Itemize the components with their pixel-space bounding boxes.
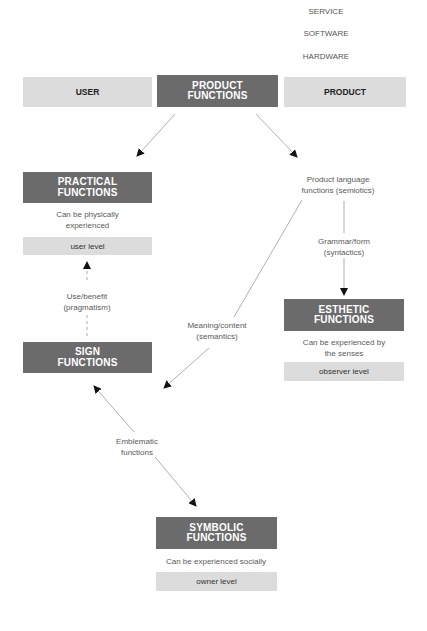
esthetic-desc-line2: the senses — [280, 348, 408, 359]
user-level-box: user level — [23, 237, 152, 255]
owner-level-box: owner level — [156, 572, 277, 591]
pragmatism-label: Use/benefit (pragmatism) — [37, 291, 137, 313]
practical-line2: FUNCTIONS — [57, 188, 117, 199]
pragmatism-line1: Use/benefit — [37, 291, 137, 302]
product-language-line2: functions (semiotics) — [278, 185, 398, 196]
practical-line1: PRACTICAL — [58, 177, 118, 188]
semantics-line1: Meaning/content — [172, 320, 262, 331]
user-label: USER — [76, 87, 100, 97]
product-language-line1: Product language — [278, 174, 398, 185]
observer-level-label: observer level — [319, 367, 369, 376]
arrow-to-sign — [94, 386, 134, 432]
symbolic-description: Can be experienced socially — [146, 556, 286, 567]
emblematic-line2: functions — [92, 447, 182, 458]
product-label: PRODUCT — [324, 87, 366, 97]
arrow-to-symbolic — [155, 457, 196, 506]
syntactics-line2: (syntactics) — [304, 247, 384, 258]
sign-line1: SIGN — [75, 347, 100, 358]
esthetic-desc-line1: Can be experienced by — [280, 337, 408, 348]
semantics-line2: (semantics) — [172, 331, 262, 342]
layer-service: SERVICE — [300, 7, 352, 16]
layer-software: SOFTWARE — [300, 29, 352, 38]
user-box: USER — [23, 77, 152, 107]
esthetic-description: Can be experienced by the senses — [280, 337, 408, 359]
arrow-to-product-language — [256, 114, 297, 157]
emblematic-line1: Emblematic — [92, 436, 182, 447]
practical-desc-line2: experienced — [23, 220, 152, 231]
arrow-to-practical — [137, 114, 175, 156]
emblematic-label: Emblematic functions — [92, 436, 182, 458]
esthetic-functions-box: ESTHETIC FUNCTIONS — [284, 299, 404, 331]
arrow-semantics — [164, 348, 209, 388]
sign-line2: FUNCTIONS — [57, 358, 117, 369]
sign-functions-box: SIGN FUNCTIONS — [23, 342, 152, 373]
layer-hardware: HARDWARE — [300, 52, 352, 61]
observer-level-box: observer level — [284, 362, 404, 381]
esthetic-line2: FUNCTIONS — [314, 315, 374, 326]
product-language-label: Product language functions (semiotics) — [278, 174, 398, 196]
syntactics-line1: Grammar/form — [304, 236, 384, 247]
practical-desc-line1: Can be physically — [23, 209, 152, 220]
product-functions-line2: FUNCTIONS — [187, 91, 247, 102]
semantics-label: Meaning/content (semantics) — [172, 320, 262, 342]
product-functions-box: PRODUCT FUNCTIONS — [157, 75, 278, 107]
symbolic-functions-box: SYMBOLIC FUNCTIONS — [156, 517, 277, 549]
user-level-label: user level — [70, 242, 104, 251]
symbolic-line2: FUNCTIONS — [186, 533, 246, 544]
owner-level-label: owner level — [196, 577, 236, 586]
practical-functions-box: PRACTICAL FUNCTIONS — [23, 172, 152, 203]
practical-description: Can be physically experienced — [23, 209, 152, 231]
pragmatism-line2: (pragmatism) — [37, 302, 137, 313]
product-box: PRODUCT — [284, 77, 406, 107]
syntactics-label: Grammar/form (syntactics) — [304, 236, 384, 258]
